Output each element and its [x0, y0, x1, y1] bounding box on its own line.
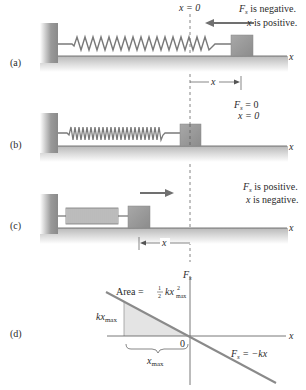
svg-text:x is positive.: x is positive.: [246, 17, 297, 28]
height-label: kxmax: [96, 311, 117, 324]
displacement-label-c: x: [161, 237, 167, 248]
x-axis-label-d: x: [288, 330, 294, 341]
block-a: [231, 35, 253, 56]
svg-text:x: x: [288, 141, 294, 152]
spring-force-diagram: (a) x x = 0 Fs is negative. x is positiv…: [0, 0, 306, 390]
panel-b: (b) x Fs = 0 x = 0: [10, 99, 294, 162]
x-axis-label-a: x: [288, 51, 294, 62]
width-brace: [126, 344, 188, 353]
block-c: [128, 206, 150, 228]
force-sign-text-c: is positive.: [254, 181, 297, 192]
panel-c: (c) x Fs is positive. x is negative. x: [10, 181, 299, 250]
force-zero-text: = 0: [245, 99, 258, 110]
panel-a-label: (a): [10, 57, 21, 69]
wall-a: [40, 23, 58, 63]
origin-label: 0: [180, 338, 185, 349]
x-sign-text-c: is negative.: [253, 194, 299, 205]
svg-text:max: max: [176, 293, 186, 299]
svg-text:x: x: [288, 222, 294, 233]
force-line: [106, 292, 276, 383]
spring-a: [58, 37, 231, 50]
svg-text:Fs: Fs: [182, 269, 192, 282]
svg-text:2: 2: [177, 285, 180, 291]
panel-a: (a) x x = 0 Fs is negative. x is positiv…: [10, 2, 297, 90]
displacement-label-a: x: [210, 76, 216, 87]
x-sign-text-a: is positive.: [254, 17, 297, 28]
svg-text:Fs is negative.: Fs is negative.: [238, 3, 296, 16]
panel-c-label: (c): [10, 220, 21, 232]
panel-b-label: (b): [10, 139, 22, 151]
x-zero-text-b: x = 0: [237, 110, 259, 121]
spring-b: [58, 127, 180, 140]
panel-d-label: (d): [10, 328, 22, 340]
svg-text:1: 1: [158, 285, 161, 291]
area-formula: Area =: [116, 286, 144, 297]
width-label: xmax: [146, 355, 164, 368]
svg-text:2: 2: [158, 293, 161, 299]
wall-b: [40, 113, 58, 153]
svg-text:kx: kx: [165, 286, 174, 297]
wall-c: [40, 194, 58, 234]
svg-text:Fs is positive.: Fs is positive.: [242, 181, 298, 194]
force-sign-text-a: is negative.: [250, 3, 296, 14]
block-b: [180, 124, 201, 146]
svg-text:x is negative.: x is negative.: [245, 194, 299, 205]
force-law-label: Fs = −kx: [230, 348, 268, 361]
floor-a: [40, 56, 288, 72]
panel-d-graph: (d) Fs x 0 Area = 1 2 kx 2 max kxmax: [10, 269, 294, 385]
x-zero-label: x = 0: [178, 2, 200, 13]
